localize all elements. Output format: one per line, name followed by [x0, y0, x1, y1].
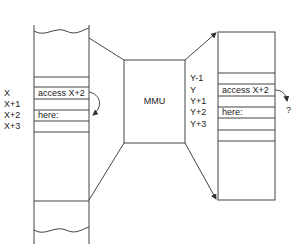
memory-cell-text: access X+2	[38, 88, 85, 98]
unknown-target-label: ?	[286, 105, 291, 115]
memory-cell-text: here:	[38, 110, 59, 120]
address-label: Y+3	[190, 119, 206, 129]
address-label: X+2	[4, 110, 20, 120]
jump-arrow-icon	[89, 92, 100, 115]
address-label: Y+1	[190, 96, 206, 106]
left-memory-addresses: X X+1 X+2 X+3	[4, 88, 20, 131]
unknown-jump-arrow-icon	[275, 90, 287, 101]
left-memory-column	[34, 25, 89, 244]
right-memory-addresses: Y-1 Y Y+1 Y+2 Y+3	[190, 73, 206, 129]
right-memory-cells: access X+2 here:	[222, 85, 269, 117]
left-memory-cells: access X+2 here:	[38, 88, 85, 120]
address-label: Y-1	[190, 73, 203, 83]
address-label: X	[4, 88, 10, 98]
address-label: X+3	[4, 121, 20, 131]
memory-cell-text: access X+2	[222, 85, 269, 95]
address-label: Y	[190, 85, 196, 95]
mmu-label: MMU	[144, 96, 166, 106]
memory-cell-text: here:	[222, 107, 243, 117]
mmu-address-translation-diagram: X X+1 X+2 X+3 access X+2 here: MMU Y-1 Y…	[0, 0, 304, 248]
address-label: Y+2	[190, 107, 206, 117]
address-label: X+1	[4, 99, 20, 109]
